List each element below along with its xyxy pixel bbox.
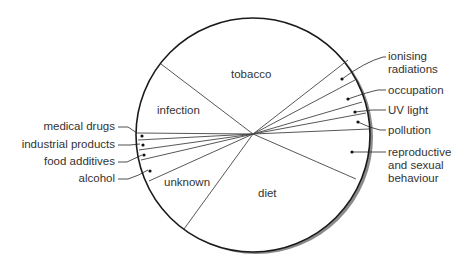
label-ionising-radiations: ionising radiations <box>388 50 438 76</box>
label-occupation: occupation <box>388 84 444 97</box>
label-infection: infection <box>157 104 200 117</box>
label-industrial-products: industrial products <box>22 138 115 151</box>
pie-body <box>136 18 370 252</box>
label-repro-line2: and sexual <box>388 159 451 172</box>
label-food-additives: food additives <box>44 155 115 168</box>
label-ionising-line1: ionising <box>388 50 438 63</box>
label-alcohol: alcohol <box>79 172 115 185</box>
label-uv-light: UV light <box>388 104 428 117</box>
label-diet: diet <box>258 187 277 200</box>
label-medical-drugs: medical drugs <box>43 120 115 133</box>
label-pollution: pollution <box>388 124 431 137</box>
label-reproductive-sexual-behaviour: reproductive and sexual behaviour <box>388 146 451 185</box>
label-repro-line3: behaviour <box>388 172 451 185</box>
label-unknown: unknown <box>164 176 210 189</box>
label-repro-line1: reproductive <box>388 146 451 159</box>
label-tobacco: tobacco <box>231 68 271 81</box>
label-ionising-line2: radiations <box>388 63 438 76</box>
